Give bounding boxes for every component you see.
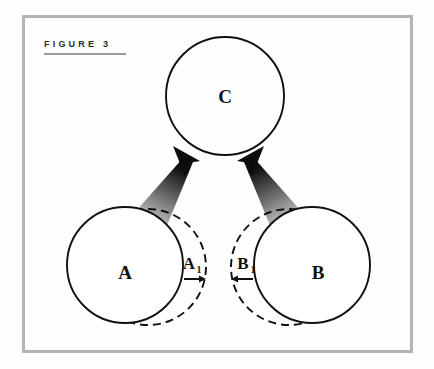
node-label-a1: A 1 xyxy=(183,254,202,275)
node-label-a: A xyxy=(118,262,132,283)
diagram-canvas: C A B A 1 B 1 xyxy=(0,0,434,369)
node-label-b1: B 1 xyxy=(237,254,255,275)
node-label-c: C xyxy=(218,86,232,107)
node-label-a1-subscript: 1 xyxy=(197,264,202,275)
figure-root: FIGURE 3 xyxy=(0,0,434,369)
shift-arrow-b1-left xyxy=(231,276,253,283)
node-label-b1-base: B xyxy=(237,254,248,273)
node-label-b: B xyxy=(312,262,325,283)
node-label-a1-base: A xyxy=(183,254,196,273)
shift-arrow-a1-right xyxy=(184,276,206,283)
node-label-b1-subscript: 1 xyxy=(251,264,256,275)
